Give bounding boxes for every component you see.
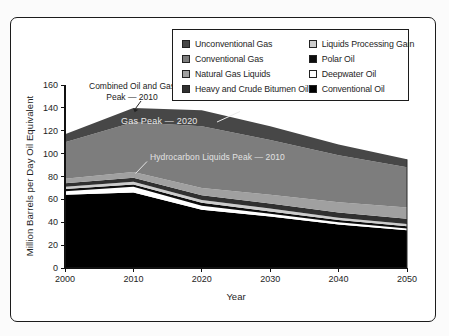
y-tick-label: 80 <box>48 172 58 182</box>
y-tick-label: 160 <box>43 80 58 90</box>
y-tick-label: 100 <box>43 149 58 159</box>
legend-item-liquids-processing-gain: Liquids Processing Gain <box>309 37 415 52</box>
legend-item-heavy-and-crude-bitumen-oil: Heavy and Crude Bitumen Oil <box>182 81 309 96</box>
legend-label: Natural Gas Liquids <box>195 69 270 79</box>
x-axis-title: Year <box>65 291 407 302</box>
legend-column-1: Unconventional GasConventional GasNatura… <box>182 37 309 96</box>
y-tick-label: 20 <box>48 240 58 250</box>
legend-item-polar-oil: Polar Oil <box>309 52 415 67</box>
legend-label: Conventional Gas <box>195 54 263 64</box>
y-tick-label: 60 <box>48 194 58 204</box>
legend-swatch-natural-gas-liquids <box>182 70 190 78</box>
x-tick-label: 2010 <box>123 274 143 284</box>
legend-item-natural-gas-liquids: Natural Gas Liquids <box>182 67 309 82</box>
legend-label: Liquids Processing Gain <box>322 39 415 49</box>
legend-swatch-heavy-and-crude-bitumen-oil <box>182 85 190 93</box>
legend-label: Heavy and Crude Bitumen Oil <box>195 84 309 94</box>
legend-swatch-liquids-processing-gain <box>309 40 317 48</box>
legend-label: Unconventional Gas <box>195 39 272 49</box>
legend: Unconventional GasConventional GasNatura… <box>172 29 409 101</box>
legend-item-deepwater-oil: Deepwater Oil <box>309 67 415 82</box>
legend-item-unconventional-gas: Unconventional Gas <box>182 37 309 52</box>
legend-label: Conventional Oil <box>322 84 385 94</box>
legend-item-conventional-gas: Conventional Gas <box>182 52 309 67</box>
x-tick-label: 2020 <box>192 274 212 284</box>
y-tick-label: 0 <box>53 263 58 273</box>
x-tick-label: 2030 <box>260 274 280 284</box>
legend-item-conventional-oil: Conventional Oil <box>309 81 415 96</box>
x-tick-label: 2050 <box>397 274 417 284</box>
legend-swatch-conventional-gas <box>182 55 190 63</box>
legend-swatch-conventional-oil <box>309 85 317 93</box>
y-tick-label: 140 <box>43 103 58 113</box>
legend-label: Polar Oil <box>322 54 355 64</box>
x-tick-label: 2000 <box>55 274 75 284</box>
x-tick-label: 2040 <box>329 274 349 284</box>
y-tick-label: 40 <box>48 217 58 227</box>
legend-swatch-polar-oil <box>309 55 317 63</box>
legend-label: Deepwater Oil <box>322 69 376 79</box>
y-tick-label: 120 <box>43 126 58 136</box>
legend-swatch-deepwater-oil <box>309 70 317 78</box>
legend-column-2: Liquids Processing GainPolar OilDeepwate… <box>309 37 415 96</box>
combined-peak-leader-line <box>136 101 142 109</box>
y-axis-title: Million Barrels per Day Oil Equivalent <box>24 96 35 257</box>
legend-swatch-unconventional-gas <box>182 40 190 48</box>
